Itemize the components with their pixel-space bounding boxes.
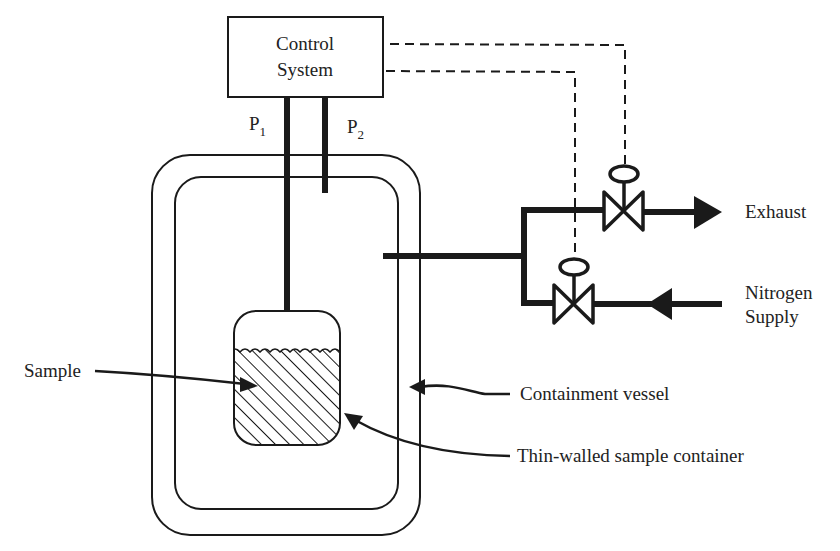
- control-system-label-1: Control: [276, 33, 334, 54]
- p1-label: P1: [249, 113, 266, 139]
- exhaust-valve[interactable]: [604, 166, 643, 230]
- exhaust-label: Exhaust: [745, 201, 807, 222]
- nitrogen-inlet-arrow-icon: [647, 288, 672, 320]
- containment-vessel-arrow-icon: [409, 379, 425, 395]
- control-system-box: Control System: [228, 17, 383, 97]
- sample-liquid: [230, 349, 345, 450]
- sample-container-label: Thin-walled sample container: [517, 445, 745, 466]
- nitrogen-label-1: Nitrogen: [745, 282, 813, 303]
- containment-vessel-callout-line: [420, 386, 510, 394]
- nitrogen-valve[interactable]: [554, 259, 593, 323]
- sample-callout-line: [95, 371, 245, 384]
- nitrogen-label-2: Supply: [745, 306, 799, 327]
- control-system-label-2: System: [277, 59, 333, 80]
- p2-label: P2: [347, 116, 364, 142]
- sample-label: Sample: [24, 360, 81, 381]
- nitrogen-valve-signal-line: [386, 71, 575, 258]
- containment-vessel-label: Containment vessel: [520, 383, 669, 404]
- exhaust-valve-signal-line: [390, 44, 625, 165]
- sample-container: [230, 311, 345, 450]
- sample-container-callout-line: [355, 420, 510, 456]
- exhaust-arrow-icon: [694, 196, 722, 229]
- apparatus-diagram: Control System P1 P2: [0, 0, 840, 551]
- control-signal-lines: [386, 44, 625, 258]
